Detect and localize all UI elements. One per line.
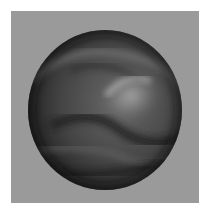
bumpy-sphere	[11, 11, 199, 203]
render-background	[11, 11, 199, 203]
